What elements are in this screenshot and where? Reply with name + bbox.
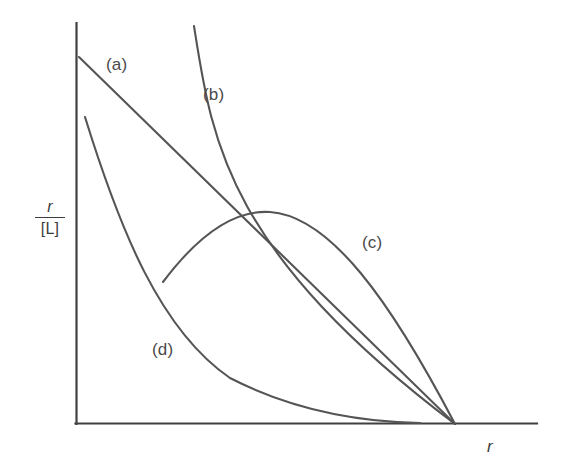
- fraction-bar-icon: [35, 217, 65, 218]
- plot-canvas: [0, 0, 565, 470]
- curve-label-c: (c): [362, 233, 382, 253]
- curve-c-path: [163, 212, 455, 424]
- scatchard-plot-figure: (a) (b) (c) (d) r [L] r: [0, 0, 565, 470]
- x-axis-label: r: [487, 437, 493, 457]
- y-axis-label-numerator: r: [28, 198, 72, 216]
- y-axis-label-denominator: [L]: [28, 220, 72, 238]
- curve-d-path: [85, 117, 420, 423]
- curve-label-a: (a): [106, 55, 127, 75]
- curve-label-d: (d): [152, 340, 173, 360]
- y-axis-label: r [L]: [28, 198, 72, 238]
- curve-b-path: [194, 26, 455, 424]
- curve-label-b: (b): [203, 85, 224, 105]
